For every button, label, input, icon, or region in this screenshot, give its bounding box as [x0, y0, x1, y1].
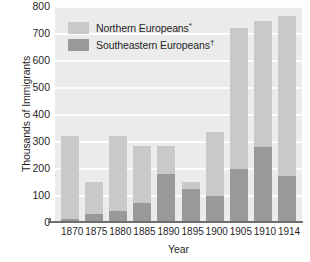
y-axis-tick-label: 200 [16, 163, 50, 173]
bar-segment-northern-europeans [278, 16, 296, 175]
x-axis-tick-label: 1910 [254, 226, 272, 240]
x-axis-tick-label: 1900 [206, 226, 224, 240]
legend-swatch [68, 22, 89, 34]
bar-segment-southeastern-europeans [157, 174, 175, 222]
legend-footnote-marker: † [210, 38, 214, 47]
bar-segment-southeastern-europeans [133, 203, 151, 222]
bar-segment-southeastern-europeans [254, 147, 272, 222]
x-axis-tick-labels: 1870187518801885189018951900190519101914 [55, 226, 302, 240]
bar-segment-northern-europeans [133, 146, 151, 204]
y-axis-tick-label: 400 [16, 109, 50, 119]
legend-label: Northern Europeans* [96, 22, 192, 34]
y-axis-tick-label: 0 [16, 217, 50, 227]
y-axis-tick-label: 500 [16, 82, 50, 92]
legend-label: Southeastern Europeans† [96, 39, 214, 51]
legend-item: Northern Europeans* [68, 22, 214, 34]
x-axis-tick-label: 1895 [182, 226, 200, 240]
x-axis-tick-label: 1875 [85, 226, 103, 240]
y-axis-tick-label: 100 [16, 190, 50, 200]
bar-segment-northern-europeans [206, 132, 224, 196]
immigration-bar-chart: Thousands of Immigrants 0100200300400500… [0, 0, 310, 262]
x-axis-title: Year [55, 243, 302, 255]
bar-segment-northern-europeans [182, 182, 200, 189]
x-axis-line [48, 221, 303, 223]
x-axis-tick-label: 1885 [133, 226, 151, 240]
y-axis-tick-label: 300 [16, 136, 50, 146]
y-axis-origin-tick [49, 218, 51, 223]
x-axis-tick-label: 1880 [109, 226, 127, 240]
x-axis-tick-label: 1870 [61, 226, 79, 240]
legend-swatch [68, 39, 89, 51]
bar-segment-southeastern-europeans [278, 176, 296, 222]
y-axis-tick-label: 600 [16, 55, 50, 65]
bar-segment-northern-europeans [254, 21, 272, 147]
bar-segment-southeastern-europeans [206, 196, 224, 222]
bar-segment-northern-europeans [109, 136, 127, 211]
y-axis-tick-label: 700 [16, 28, 50, 38]
bar-column [254, 6, 272, 222]
bar-segment-northern-europeans [85, 182, 103, 214]
chart-legend: Northern Europeans*Southeastern European… [68, 22, 214, 51]
x-axis-tick-label: 1905 [230, 226, 248, 240]
legend-footnote-marker: * [189, 21, 192, 30]
bar-segment-southeastern-europeans [230, 169, 248, 222]
x-axis-tick-label: 1890 [157, 226, 175, 240]
x-axis-tick-label: 1914 [278, 226, 296, 240]
bar-segment-northern-europeans [230, 28, 248, 168]
y-axis-tick-label: 800 [16, 1, 50, 11]
bar-column [230, 6, 248, 222]
bar-column [278, 6, 296, 222]
bar-segment-northern-europeans [61, 136, 79, 219]
legend-item: Southeastern Europeans† [68, 39, 214, 51]
y-axis-tick-labels: 0100200300400500600700800 [16, 0, 50, 228]
bar-segment-northern-europeans [157, 146, 175, 174]
bar-segment-southeastern-europeans [182, 189, 200, 222]
